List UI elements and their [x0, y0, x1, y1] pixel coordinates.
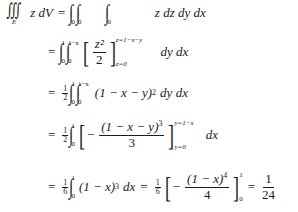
lhs-integrand: z dV	[30, 5, 53, 21]
differentials: dy dx	[160, 44, 188, 60]
integral-sign: ∫	[69, 124, 73, 146]
equals-sign: =	[48, 179, 55, 195]
numerator-exponent: 4	[223, 170, 227, 179]
numerator-exponent: 3	[158, 118, 162, 127]
fraction: (1 − x)4 4	[185, 172, 229, 203]
evaluation-limits: z=1−x−y z=0	[116, 36, 143, 68]
equals-sign: =	[58, 5, 65, 21]
fraction-denominator: 2	[96, 53, 103, 68]
coefficient-denominator: 6	[63, 188, 67, 196]
integral-limits: 1 − x − y 0	[107, 0, 132, 26]
coefficient: 1 2	[62, 127, 68, 144]
coefficient-denominator: 2	[63, 94, 67, 102]
fraction-denominator: 4	[204, 188, 211, 203]
integral-sign: ∫	[59, 41, 63, 63]
fraction-denominator: 3	[129, 136, 136, 151]
result-numerator: 1	[263, 172, 274, 188]
integrand: z dz dy dx	[155, 5, 206, 21]
numerator-expression: (1 − x − y)	[101, 119, 158, 134]
integral-sign: ∫	[66, 41, 70, 63]
left-bracket: [	[79, 120, 85, 150]
integral-sign: ∫	[76, 2, 80, 24]
equals-sign: =	[248, 179, 255, 195]
eval-upper: z=1−x−y	[116, 36, 143, 44]
fraction-numerator: (1 − x − y)3	[99, 120, 164, 136]
equation-line-2: = ∫ 1 0 ∫ 1−x 0 [ z² 2 ] z=1−x−y z=0 dy …	[48, 32, 188, 72]
integral-sign: ∫	[76, 82, 80, 104]
eval-lower: 0	[239, 195, 243, 203]
eval-lower: y=0	[174, 143, 193, 151]
coefficient: 1 6	[155, 179, 161, 196]
fraction-numerator: (1 − x)4	[185, 172, 229, 188]
fraction: z² 2	[93, 37, 106, 68]
integrand: (1 − x − y)	[95, 85, 152, 101]
integral-sign: ∫	[69, 2, 73, 24]
equation-line-5: = 1 6 ∫ 1 0 (1 − x)3 dx = 1 6 [ − (1 − x…	[48, 166, 277, 208]
equation-line-3: = 1 2 ∫ 1 0 ∫ 1−x 0 (1 − x − y)2 dy dx	[48, 80, 188, 106]
result-fraction: 1 24	[262, 172, 275, 203]
region-label: E	[12, 19, 16, 26]
integral-sign: ∫	[69, 82, 73, 104]
equals-sign: =	[140, 179, 147, 195]
result-denominator: 24	[262, 188, 275, 203]
equals-sign: =	[48, 85, 55, 101]
left-bracket: [	[83, 37, 89, 67]
evaluation-limits: 1 0	[239, 171, 243, 203]
equals-sign: =	[48, 44, 55, 60]
integral-sign: ∫	[69, 176, 73, 198]
right-bracket: ]	[110, 37, 116, 67]
numerator-expression: (1 − x)	[187, 171, 223, 186]
integral-sign: ∫	[105, 2, 109, 24]
coefficient: 1 2	[62, 85, 68, 102]
differentials: dx	[123, 179, 135, 195]
coefficient-denominator: 2	[63, 136, 67, 144]
triple-integral-sign: ∭	[6, 1, 16, 19]
coefficient: 1 6	[62, 179, 68, 196]
minus-sign: −	[173, 179, 180, 195]
differentials: dx	[206, 127, 218, 143]
differentials: dy dx	[160, 85, 188, 101]
eval-upper: y=1−x	[174, 119, 193, 127]
equation-line-4: = 1 2 ∫ 1 0 [ − (1 − x − y)3 3 ] y=1−x y…	[48, 114, 218, 156]
fraction: (1 − x − y)3 3	[99, 120, 164, 151]
coefficient-denominator: 6	[156, 188, 160, 196]
minus-sign: −	[87, 127, 94, 143]
eval-upper: 1	[239, 171, 243, 179]
triple-integral: ∭ E	[4, 1, 24, 26]
equals-sign: =	[48, 127, 55, 143]
integrand: (1 − x)	[79, 179, 115, 195]
equation-line-1: ∭ E z dV = ∫ 1 0 ∫ 1 − x 0 ∫ 1 − x − y 0…	[4, 0, 206, 26]
left-bracket: [	[165, 172, 171, 202]
right-bracket: ]	[233, 172, 239, 202]
eval-lower: z=0	[116, 60, 143, 68]
fraction-numerator: z²	[93, 37, 106, 53]
evaluation-limits: y=1−x y=0	[174, 119, 193, 151]
right-bracket: ]	[168, 120, 174, 150]
